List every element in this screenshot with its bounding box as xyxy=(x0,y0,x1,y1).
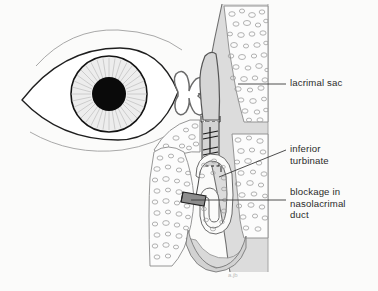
label-lacrimal-sac: lacrimal sac xyxy=(290,77,342,89)
lacrimal-sac xyxy=(200,52,220,122)
medical-illustration-figure: a.jb lacrimal sac inferior turbinate blo… xyxy=(0,0,378,291)
artist-signature: a.jb xyxy=(228,272,238,278)
label-blockage-in-nasolacrimal-duct: blockage in nasolacrimal duct xyxy=(290,186,346,221)
label-inferior-turbinate: inferior turbinate xyxy=(290,143,329,166)
pupil xyxy=(92,77,126,111)
